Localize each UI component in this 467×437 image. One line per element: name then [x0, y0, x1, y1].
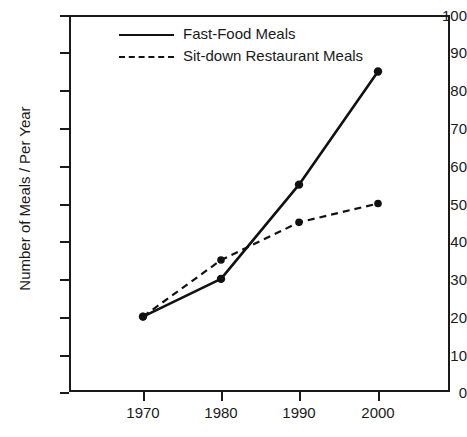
y-tick [60, 128, 69, 130]
y-axis-label: 20 [415, 310, 467, 325]
y-tick [60, 15, 69, 17]
x-axis-label: 2000 [348, 405, 408, 420]
y-axis-label: 90 [415, 45, 467, 60]
y-tick [60, 90, 69, 92]
y-axis-label: 60 [415, 159, 467, 174]
y-axis-label: 70 [415, 121, 467, 136]
x-tick [378, 392, 380, 401]
solid-line-swatch-icon [119, 34, 174, 36]
x-axis-label: 1990 [269, 405, 329, 420]
x-axis-label: 1980 [191, 405, 251, 420]
y-axis-label: 40 [415, 234, 467, 249]
y-axis-label: 10 [415, 348, 467, 363]
y-axis-label: 50 [415, 197, 467, 212]
dashed-line-swatch-icon [119, 56, 174, 58]
y-tick [60, 52, 69, 54]
y-axis-label: 30 [415, 272, 467, 287]
y-tick [60, 392, 69, 394]
y-axis-title: Number of Meals / Per Year [16, 79, 33, 319]
y-tick [60, 279, 69, 281]
y-axis-label: 80 [415, 83, 467, 98]
y-tick [60, 355, 69, 357]
legend-label: Fast-Food Meals [183, 24, 296, 44]
x-tick [299, 392, 301, 401]
y-axis-label: 100 [415, 8, 467, 23]
chart-page: 100 90 80 70 60 50 40 30 20 10 0 Number … [0, 0, 467, 437]
x-tick [221, 392, 223, 401]
y-axis-label: 0 [415, 385, 467, 400]
y-tick [60, 166, 69, 168]
legend-label: Sit-down Restaurant Meals [183, 46, 363, 66]
y-tick [60, 241, 69, 243]
x-tick [143, 392, 145, 401]
plot-area [69, 15, 450, 392]
y-tick [60, 204, 69, 206]
y-tick [60, 317, 69, 319]
x-axis-label: 1970 [113, 405, 173, 420]
